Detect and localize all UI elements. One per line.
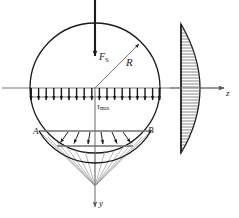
fan-ray (75, 149, 95, 186)
radial-stress-arrow (88, 132, 90, 144)
shear-stress-figure: FS R τmax A B z y (0, 0, 239, 218)
radial-stress-arrow (101, 132, 103, 144)
point-b-label: B (148, 126, 154, 135)
figure-canvas (0, 0, 239, 218)
z-axis-label: z (226, 89, 230, 98)
radial-stress-arrow (74, 132, 79, 144)
fan-ray (95, 131, 151, 186)
radius-label: R (126, 57, 133, 68)
fan-ray (95, 149, 115, 186)
fan-ray (39, 131, 95, 186)
fan-ray (57, 142, 95, 186)
radial-stress-arrow (61, 132, 69, 143)
radial-stress-arrow (123, 132, 131, 143)
y-axis-label: y (99, 199, 103, 208)
fan-ray (95, 142, 133, 186)
point-a-label: A (33, 127, 39, 136)
shear-force-label: FS (99, 52, 109, 63)
tau-max-label: τmax (97, 103, 109, 112)
radial-stress-arrow (112, 132, 117, 144)
